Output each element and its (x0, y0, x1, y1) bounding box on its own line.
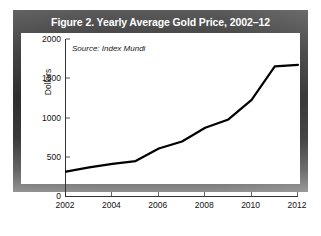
gold-price-line-series (66, 39, 298, 196)
x-tick-label: 2012 (277, 200, 317, 210)
y-tick-label: 1000 (23, 113, 61, 123)
x-tick-label: 2008 (184, 200, 224, 210)
figure-container: Figure 2. Yearly Average Gold Price, 200… (13, 10, 308, 192)
y-tick-label: 2000 (23, 34, 61, 44)
plot-canvas: Dollars 0500100015002000 Source: Index M… (21, 33, 300, 184)
figure-title: Figure 2. Yearly Average Gold Price, 200… (13, 14, 308, 30)
plot-area: Source: Index Mundi (65, 39, 298, 197)
y-tick-label: 500 (23, 152, 61, 162)
x-tick-label: 2006 (138, 200, 178, 210)
y-tick-label: 1500 (23, 73, 61, 83)
x-tick-label: 2004 (91, 200, 131, 210)
x-tick-label: 2010 (231, 200, 271, 210)
gold-price-line (66, 65, 298, 172)
x-tick-label: 2002 (45, 200, 85, 210)
